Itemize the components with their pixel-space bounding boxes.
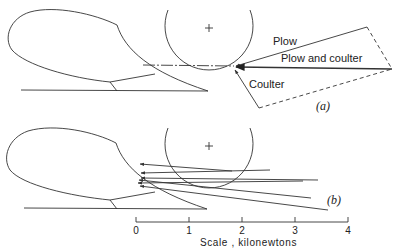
reference-line [143,65,234,66]
strut-foot-b [110,200,117,209]
plow-force-label: Plow [273,36,297,47]
ground-line-b [24,208,207,209]
scale-bar [136,217,348,222]
force-line-3 [141,178,318,180]
panel-b-label: (b) [327,194,341,206]
plow-force-diagram: Plow Plow and coulter Coulter (a) (b) 0 … [0,0,396,251]
coulter-force-label: Coulter [249,79,284,90]
resultant-force-arrow [236,67,392,69]
plow-body-outline-b [7,128,207,209]
force-line-2 [141,170,270,173]
scale-caption: Scale , kilonewtons [200,238,297,248]
scale-label-2: 2 [239,226,245,236]
panel-b [7,128,328,210]
strut-b [110,192,155,200]
coulter-circle [165,10,253,70]
panel-a-label: (a) [316,100,330,112]
dashed-closure-1 [367,27,392,69]
scale-label-3: 3 [292,226,298,236]
resultant-force-label: Plow and coulter [281,53,362,64]
scale-label-1: 1 [186,226,192,236]
scale-label-0: 0 [133,226,139,236]
scale-label-4: 4 [345,226,351,236]
force-line-1 [140,164,232,171]
strut-foot [110,82,117,91]
plow-body-outline [8,10,208,91]
diagram-canvas [0,0,396,251]
strut [110,74,155,82]
ground-line [21,90,208,91]
